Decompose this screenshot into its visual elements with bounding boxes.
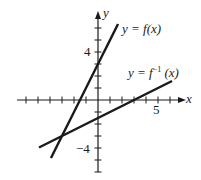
finv-series-label: y = f−1 (x) [128, 66, 179, 79]
y-axis-arrow-icon [95, 11, 101, 19]
finv-label-sup: −1 [153, 65, 162, 74]
x-axis-label: x [186, 92, 192, 105]
chart-container: y x 5 4 −4 y = f(x) y = f−1 (x) [0, 0, 201, 180]
finv-label-arg: (x) [161, 65, 179, 80]
x-tick-label-5: 5 [153, 103, 160, 116]
plot-area [0, 0, 201, 180]
y-tick-label-neg4: −4 [76, 142, 90, 155]
finv-label-prefix: y = [128, 65, 149, 80]
f-label-func: f(x) [143, 21, 161, 36]
x-axis-arrow-icon [178, 97, 186, 103]
y-axis-label: y [103, 6, 109, 19]
series-lines [39, 24, 172, 158]
f-series-label: y = f(x) [122, 22, 161, 35]
y-tick-label-4: 4 [84, 45, 91, 58]
f-label-prefix: y = [122, 21, 143, 36]
